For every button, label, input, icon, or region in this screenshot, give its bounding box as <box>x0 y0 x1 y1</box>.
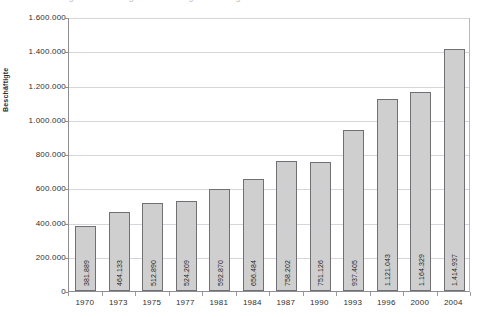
x-axis-tick-mark <box>269 292 270 296</box>
bar: 592.870 <box>209 189 230 291</box>
bar-value-label: 751.126 <box>317 260 324 286</box>
x-axis-tick-mark <box>68 292 69 296</box>
y-axis-title: Beschäftigte <box>2 68 9 112</box>
x-axis-tick-mark <box>437 292 438 296</box>
y-axis-tick-label: 800.000 <box>0 150 66 159</box>
y-axis-tick-label: 1.000.000 <box>0 116 66 125</box>
x-axis-tick-label: 2000 <box>403 298 437 307</box>
bar-value-label: 758.202 <box>283 260 290 286</box>
x-axis-tick-label: 1996 <box>370 298 404 307</box>
y-axis-tick-label: 400.000 <box>0 219 66 228</box>
bar-value-label: 1.414.937 <box>451 254 458 286</box>
bar: 656.484 <box>243 179 264 291</box>
x-axis-tick-mark <box>169 292 170 296</box>
bar-chart: Abbildung 1: Entwicklung der Beschäftigt… <box>0 0 479 317</box>
x-axis-tick-mark <box>370 292 371 296</box>
y-axis-tick-label: 200.000 <box>0 253 66 262</box>
bar-value-label: 381.889 <box>82 260 89 286</box>
bar: 1.164.329 <box>410 92 431 291</box>
x-axis-tick-mark <box>236 292 237 296</box>
x-axis-tick-label: 1975 <box>135 298 169 307</box>
bar-value-label: 1.121.043 <box>384 254 391 286</box>
bar-value-label: 524.209 <box>183 260 190 286</box>
bar-value-label: 937.405 <box>350 260 357 286</box>
x-axis-tick-mark <box>202 292 203 296</box>
y-axis-tick-label: 1.600.000 <box>0 13 66 22</box>
bar-value-label: 512.890 <box>149 260 156 286</box>
bar-value-label: 656.484 <box>250 260 257 286</box>
bar: 1.121.043 <box>377 99 398 291</box>
plot-area: 381.889464.133512.890524.209592.870656.4… <box>68 18 470 292</box>
x-axis-tick-mark <box>336 292 337 296</box>
x-axis-tick-label: 2004 <box>437 298 471 307</box>
y-axis-tick-label: 600.000 <box>0 184 66 193</box>
bar-value-label: 1.164.329 <box>417 254 424 286</box>
y-axis-tick-label: 1.200.000 <box>0 82 66 91</box>
x-axis-tick-label: 1973 <box>102 298 136 307</box>
x-axis-tick-label: 1984 <box>236 298 270 307</box>
x-axis-tick-mark <box>403 292 404 296</box>
y-axis-tick-label: 1.400.000 <box>0 47 66 56</box>
x-axis-tick-label: 1977 <box>169 298 203 307</box>
x-axis-tick-mark <box>303 292 304 296</box>
x-axis-tick-label: 1987 <box>269 298 303 307</box>
x-axis-tick-label: 1981 <box>202 298 236 307</box>
bar-value-label: 464.133 <box>116 260 123 286</box>
bar: 751.126 <box>310 162 331 291</box>
bar: 758.202 <box>276 161 297 291</box>
bar-value-label: 592.870 <box>216 260 223 286</box>
cropped-title-remnant: Abbildung 1: Entwicklung der Beschäftigt… <box>34 0 454 3</box>
bar: 512.890 <box>142 203 163 291</box>
x-axis-tick-mark <box>102 292 103 296</box>
bar: 937.405 <box>343 130 364 291</box>
x-axis-tick-mark <box>135 292 136 296</box>
x-axis-tick-label: 1993 <box>336 298 370 307</box>
bar-series: 381.889464.133512.890524.209592.870656.4… <box>69 19 469 291</box>
bar: 381.889 <box>75 226 96 291</box>
bar: 524.209 <box>176 201 197 291</box>
x-axis-tick-label: 1990 <box>303 298 337 307</box>
x-axis-tick-mark <box>470 292 471 296</box>
x-axis-tick-label: 1970 <box>68 298 102 307</box>
y-axis-tick-label: 0 <box>0 287 66 296</box>
bar: 464.133 <box>109 212 130 291</box>
bar: 1.414.937 <box>444 49 465 291</box>
